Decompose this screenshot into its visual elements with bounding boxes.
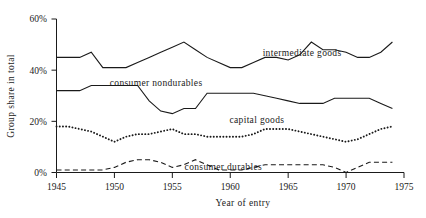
chart-container: 0%20%40%60% 1945195019551960196519701975… bbox=[0, 0, 426, 218]
series-label-consumer-durables: consumer durables bbox=[185, 162, 262, 172]
y-tick-label: 60% bbox=[30, 14, 48, 24]
x-tick-label: 1960 bbox=[221, 182, 240, 192]
y-axis-tick-labels: 0%20%40%60% bbox=[30, 14, 48, 178]
y-axis-ticks bbox=[52, 19, 57, 173]
x-axis-ticks bbox=[57, 173, 405, 179]
x-tick-label: 1955 bbox=[163, 182, 182, 192]
x-tick-label: 1965 bbox=[279, 182, 298, 192]
x-axis-tick-labels: 1945195019551960196519701975 bbox=[47, 182, 414, 192]
x-tick-label: 1950 bbox=[105, 182, 124, 192]
group-share-line-chart: 0%20%40%60% 1945195019551960196519701975… bbox=[0, 0, 426, 218]
y-tick-label: 0% bbox=[34, 168, 47, 178]
y-tick-label: 20% bbox=[30, 117, 48, 127]
x-tick-label: 1945 bbox=[47, 182, 66, 192]
series-line-capital-goods bbox=[57, 126, 393, 141]
x-tick-label: 1970 bbox=[337, 182, 356, 192]
series-line-intermediate-goods bbox=[57, 42, 393, 68]
data-series-group bbox=[57, 42, 393, 172]
series-annotation-labels: intermediate goodsconsumer nondurablesca… bbox=[110, 48, 342, 172]
series-label-intermediate-goods: intermediate goods bbox=[263, 48, 342, 58]
series-line-consumer-nondurables bbox=[57, 86, 393, 114]
x-axis-title: Year of entry bbox=[216, 198, 271, 208]
series-label-consumer-nondurables: consumer nondurables bbox=[110, 78, 203, 88]
x-tick-label: 1975 bbox=[395, 182, 414, 192]
series-label-capital-goods: capital goods bbox=[229, 115, 284, 125]
y-tick-label: 40% bbox=[30, 66, 48, 76]
y-axis-title: Group share in total bbox=[6, 54, 16, 138]
